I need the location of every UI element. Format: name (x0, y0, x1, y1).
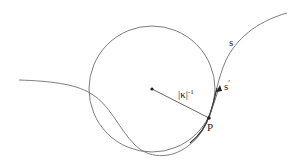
tangent-s-prime-label: s′ (224, 79, 230, 92)
tangent-line (209, 88, 219, 118)
center-point (150, 87, 153, 90)
point-P-label: P (207, 121, 213, 133)
radius-label: |κ|-1 (178, 88, 194, 100)
osculating-circle-diagram: |κ|-1 P s s′ (0, 0, 303, 165)
point-P (207, 116, 210, 119)
curve-s (19, 13, 287, 156)
curve-s-label: s (229, 36, 233, 48)
